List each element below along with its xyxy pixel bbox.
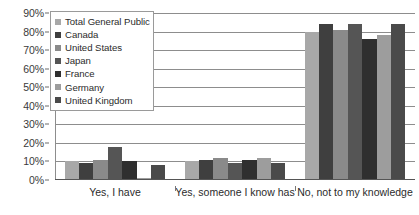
y-axis-tick [45,50,49,51]
legend-swatch-icon [55,71,61,77]
legend-item-label: United Kingdom [65,95,133,106]
y-axis-tick [45,31,49,32]
bar [199,160,213,180]
bar [228,163,242,180]
legend-item-label: Total General Public [65,16,150,27]
legend-item-label: Japan [65,55,91,66]
y-axis-tick-label: 10% [23,155,44,167]
y-axis-tick-label: 60% [23,63,44,75]
legend-item-label: France [65,68,95,79]
legend-item[interactable]: Germany [55,80,148,93]
y-axis-tick [45,124,49,125]
bar [185,161,199,180]
legend-item-label: United States [65,42,122,53]
y-axis-tick [45,68,49,69]
y-axis-tick-label: 0% [29,174,44,186]
y-axis-tick [45,87,49,88]
y-axis-tick [45,161,49,162]
x-axis-labels: Yes, I haveYes, someone I know hasNo, no… [55,186,415,198]
bar [333,30,347,180]
bar-group [295,13,415,180]
bar [122,161,136,180]
legend-swatch-icon [55,32,61,38]
legend-swatch-icon [55,97,61,103]
y-axis-tick-label: 90% [23,7,44,19]
x-axis-category-label: No, not to my knowledge [295,186,415,198]
legend-item[interactable]: United Kingdom [55,94,148,107]
bar-group-inner [185,13,286,180]
legend-swatch-icon [55,45,61,51]
x-axis-category-label: Yes, I have [55,186,175,198]
y-axis-tick [45,180,49,181]
legend-item-label: Germany [65,82,104,93]
legend-item-label: Canada [65,29,98,40]
legend-swatch-icon [55,19,61,25]
bar [348,24,362,180]
bar-group-inner [305,13,406,180]
bar [242,160,256,180]
x-axis-separator-tick [295,186,296,191]
y-axis-tick-label: 70% [23,44,44,56]
y-axis-tick-label: 50% [23,81,44,93]
bar [319,24,333,180]
legend-item[interactable]: Canada [55,28,148,41]
bar-chart: 0%10%20%30%40%50%60%70%80%90% Yes, I hav… [0,0,419,215]
bar [108,147,122,180]
legend-item[interactable]: Total General Public [55,15,148,28]
bar [391,24,405,180]
x-axis-separator-tick [175,186,176,191]
y-axis-tick [45,142,49,143]
legend-swatch-icon [55,58,61,64]
bar [151,165,165,180]
y-axis-tick-label: 20% [23,137,44,149]
x-axis-category-label: Yes, someone I know has [175,186,295,198]
y-axis-tick [45,13,49,14]
y-axis-tick [45,105,49,106]
bar-group [175,13,295,180]
y-axis-tick-label: 30% [23,118,44,130]
legend: Total General PublicCanadaUnited StatesJ… [50,11,154,111]
bar [213,158,227,180]
y-axis-tick-label: 40% [23,100,44,112]
x-axis-line [55,179,415,180]
y-axis: 0%10%20%30%40%50%60%70%80%90% [0,13,50,180]
legend-item[interactable]: France [55,67,148,80]
bar [362,39,376,180]
bar [79,163,93,180]
bar [305,32,319,180]
bar [377,35,391,180]
bar [93,160,107,180]
y-axis-tick-label: 80% [23,26,44,38]
legend-item[interactable]: United States [55,41,148,54]
bar [257,158,271,180]
legend-item[interactable]: Japan [55,54,148,67]
legend-swatch-icon [55,84,61,90]
bar [271,163,285,180]
bar [65,161,79,180]
